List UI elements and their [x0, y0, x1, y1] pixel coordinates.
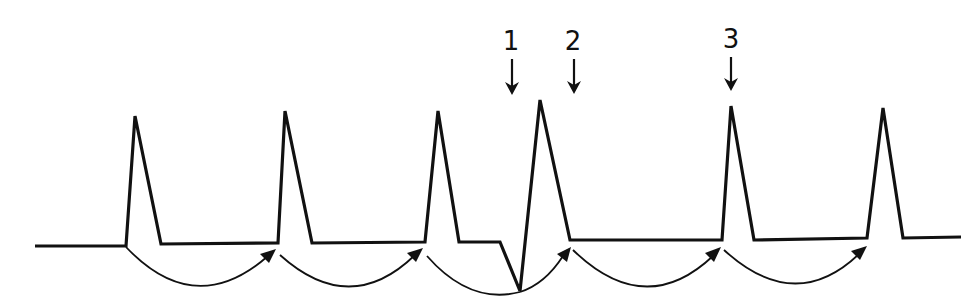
interval-arc-6: [724, 250, 859, 284]
interval-arc-3: [427, 256, 520, 295]
marker-1: 1: [503, 26, 520, 95]
interval-arcs: [126, 246, 867, 295]
interval-arc-2: [280, 255, 415, 287]
rhythm-diagram: 1 2 3: [0, 0, 973, 308]
interval-arc-4: [520, 256, 563, 292]
marker-label-3: 3: [723, 24, 740, 54]
interval-arc-1: [126, 247, 268, 286]
marker-label-2: 2: [565, 26, 582, 56]
marker-2: 2: [565, 26, 582, 94]
interval-arc-5: [573, 250, 713, 287]
arrowhead-4: [557, 247, 571, 262]
waveform-trace: [35, 100, 961, 291]
marker-label-1: 1: [503, 26, 520, 56]
arrowhead-5: [705, 247, 721, 262]
marker-3: 3: [723, 24, 740, 91]
